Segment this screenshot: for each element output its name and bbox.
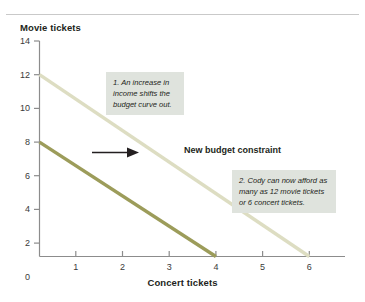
x-tick-label-1: 1 <box>66 262 86 272</box>
plot-area <box>0 0 365 302</box>
annotation-income-shift: 1. An increase in income shifts the budg… <box>106 72 184 115</box>
x-tick-label-3: 3 <box>159 262 179 272</box>
x-axis-title: Concert tickets <box>0 277 365 288</box>
y-tick-label-8: 8 <box>12 137 30 147</box>
original-budget-constraint-line <box>40 142 216 256</box>
budget-constraint-figure: Movie tickets <box>0 0 365 302</box>
x-tick-label-4: 4 <box>206 262 226 272</box>
x-axis-ticks <box>76 251 309 257</box>
y-tick-label-2: 2 <box>12 238 30 248</box>
annotation-affordability: 2. Cody can now afford as many as 12 mov… <box>232 170 336 213</box>
y-tick-label-12: 12 <box>12 70 30 80</box>
y-tick-label-6: 6 <box>12 171 30 181</box>
y-axis-ticks <box>34 41 40 243</box>
x-tick-label-6: 6 <box>299 262 319 272</box>
y-tick-label-10: 10 <box>12 103 30 113</box>
shift-arrow-icon <box>92 148 139 158</box>
y-tick-label-14: 14 <box>12 36 30 46</box>
x-tick-label-5: 5 <box>253 262 273 272</box>
y-tick-label-4: 4 <box>12 204 30 214</box>
x-tick-label-2: 2 <box>113 262 133 272</box>
new-budget-constraint-label: New budget constraint <box>184 145 281 155</box>
